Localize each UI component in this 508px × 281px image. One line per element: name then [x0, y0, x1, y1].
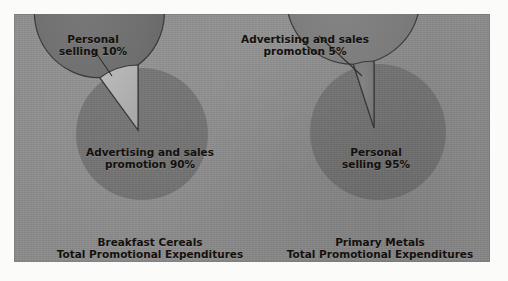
figure-root: Personal selling 10% Advertising and sal…	[0, 0, 508, 281]
inner-label-left: Advertising and sales promotion 90%	[74, 146, 226, 171]
pie-right-dropshadow	[310, 64, 446, 200]
inner-label-right: Personal selling 95%	[320, 146, 432, 171]
callout-label-right: Advertising and sales promotion 5%	[230, 33, 380, 58]
caption-right: Primary Metals Total Promotional Expendi…	[282, 236, 478, 261]
pie-left-dropshadow	[76, 68, 208, 200]
caption-left: Breakfast Cereals Total Promotional Expe…	[52, 236, 248, 261]
callout-label-left: Personal selling 10%	[38, 33, 148, 58]
chart-panel: Personal selling 10% Advertising and sal…	[14, 14, 490, 262]
